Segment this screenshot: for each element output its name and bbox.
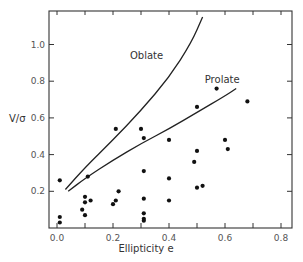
x-tick-label: 0.2 xyxy=(106,233,120,243)
data-point xyxy=(142,211,146,215)
data-point xyxy=(245,99,249,103)
y-tick-label: 0.8 xyxy=(31,76,46,86)
data-point xyxy=(117,189,121,193)
data-point xyxy=(86,175,90,179)
data-point xyxy=(195,149,199,153)
data-point xyxy=(215,86,219,90)
data-point xyxy=(89,198,93,202)
data-point xyxy=(167,138,171,142)
y-tick-label: 0.2 xyxy=(31,186,45,196)
model-curves xyxy=(65,17,236,191)
x-tick-label: 0.0 xyxy=(50,233,65,243)
y-tick-label: 0.4 xyxy=(31,150,46,160)
y-tick-label: 0.6 xyxy=(31,113,46,123)
y-tick-label: 1.0 xyxy=(31,40,46,50)
y-axis-title: V/σ xyxy=(9,113,26,124)
data-point xyxy=(83,200,87,204)
x-tick-label: 0.8 xyxy=(274,233,289,243)
data-point xyxy=(223,138,227,142)
scatter-chart: 0.00.20.40.60.8 0.20.40.60.81.0 V/σ Elli… xyxy=(0,0,303,262)
y-axis-ticks: 0.20.40.60.81.0 xyxy=(31,40,292,197)
oblate-label: Oblate xyxy=(130,50,163,61)
data-point xyxy=(167,176,171,180)
data-points xyxy=(58,86,250,224)
data-point xyxy=(114,127,118,131)
data-point xyxy=(201,184,205,188)
data-point xyxy=(192,160,196,164)
data-point xyxy=(195,186,199,190)
data-point xyxy=(111,202,115,206)
x-tick-label: 0.4 xyxy=(162,233,177,243)
data-point xyxy=(142,136,146,140)
x-axis-title: Ellipticity e xyxy=(118,243,173,254)
data-point xyxy=(142,219,146,223)
curve-labels: OblateProlate xyxy=(130,50,240,85)
prolate-curve xyxy=(68,89,236,192)
prolate-label: Prolate xyxy=(205,74,240,85)
data-point xyxy=(226,147,230,151)
x-axis-ticks: 0.00.20.40.60.8 xyxy=(50,11,289,243)
oblate-curve xyxy=(65,17,202,189)
data-point xyxy=(139,127,143,131)
data-point xyxy=(114,198,118,202)
data-point xyxy=(83,213,87,217)
data-point xyxy=(58,215,62,219)
data-point xyxy=(142,169,146,173)
data-point xyxy=(167,198,171,202)
x-tick-label: 0.6 xyxy=(218,233,233,243)
data-point xyxy=(80,208,84,212)
data-point xyxy=(142,197,146,201)
data-point xyxy=(58,220,62,224)
data-point xyxy=(195,105,199,109)
data-point xyxy=(58,178,62,182)
data-point xyxy=(83,195,87,199)
